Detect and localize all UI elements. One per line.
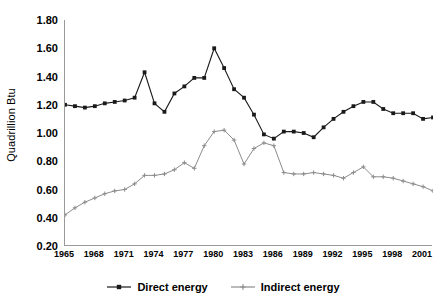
data-point-marker <box>113 189 117 193</box>
y-tick-label: 0.40 <box>37 212 58 224</box>
data-point-marker <box>311 170 315 174</box>
data-point-marker <box>431 189 433 193</box>
y-tick-label: 0.80 <box>37 155 58 167</box>
data-point-marker <box>421 117 425 121</box>
data-point-marker <box>371 100 375 104</box>
data-point-marker <box>352 104 356 108</box>
data-point-marker <box>431 116 433 120</box>
data-point-marker <box>411 182 415 186</box>
x-tick-label: 1968 <box>84 249 104 259</box>
data-point-marker <box>173 92 177 96</box>
data-point-marker <box>212 46 216 50</box>
data-point-marker <box>65 103 67 107</box>
legend-label: Direct energy <box>137 281 207 293</box>
data-point-marker <box>302 131 306 135</box>
x-tick-label: 1980 <box>203 249 223 259</box>
x-tick-label: 1965 <box>54 249 74 259</box>
energy-line-chart: Quadrillion Btu 1.801.601.401.201.000.80… <box>0 0 446 300</box>
legend-label: Indirect energy <box>261 281 340 293</box>
x-tick-label: 1983 <box>233 249 253 259</box>
x-axis-tick-labels: 1965196819711974197719801983198619891992… <box>64 249 432 267</box>
x-tick-label: 1977 <box>173 249 193 259</box>
data-point-marker <box>103 101 107 105</box>
data-point-marker <box>292 172 296 176</box>
data-point-marker <box>93 196 97 200</box>
data-point-marker <box>312 135 316 139</box>
data-point-marker <box>113 100 117 104</box>
x-tick-label: 1974 <box>143 249 163 259</box>
legend-entry-direct-energy[interactable]: Direct energy <box>106 281 207 293</box>
data-point-marker <box>381 175 385 179</box>
x-tick-label: 1989 <box>293 249 313 259</box>
x-tick-label: 1998 <box>382 249 402 259</box>
y-axis-title-text: Quadrillion Btu <box>5 88 17 162</box>
data-point-marker <box>242 96 246 100</box>
data-point-marker <box>83 106 87 110</box>
x-tick-label: 1995 <box>352 249 372 259</box>
data-point-marker <box>153 101 157 105</box>
data-point-marker <box>282 130 286 134</box>
data-point-marker <box>361 100 365 104</box>
data-point-marker <box>83 200 87 204</box>
y-tick-label: 1.60 <box>37 42 58 54</box>
data-point-marker <box>321 172 325 176</box>
data-point-marker <box>302 172 306 176</box>
legend-entry-indirect-energy[interactable]: Indirect energy <box>230 281 340 293</box>
plot-svg <box>65 20 433 246</box>
data-point-marker <box>192 76 196 80</box>
legend-swatch-square-marker-icon <box>106 282 132 292</box>
data-point-marker <box>381 107 385 111</box>
chart-legend: Direct energyIndirect energy <box>0 276 446 298</box>
y-tick-label: 1.40 <box>37 71 58 83</box>
data-point-marker <box>391 111 395 115</box>
data-point-marker <box>351 170 355 174</box>
plot-area <box>64 20 432 246</box>
series-direct-energy <box>65 46 433 140</box>
data-point-marker <box>202 76 206 80</box>
data-point-marker <box>162 172 166 176</box>
data-point-marker <box>262 133 266 137</box>
y-axis-title: Quadrillion Btu <box>0 0 22 250</box>
data-point-marker <box>93 104 97 108</box>
data-point-marker <box>222 66 226 70</box>
data-point-marker <box>123 99 127 103</box>
x-tick-label: 1986 <box>263 249 283 259</box>
data-point-marker <box>103 192 107 196</box>
data-point-marker <box>292 130 296 134</box>
series-line <box>65 130 433 215</box>
x-tick-label: 1971 <box>114 249 134 259</box>
y-tick-label: 1.00 <box>37 127 58 139</box>
data-point-marker <box>322 125 326 129</box>
data-point-marker <box>401 111 405 115</box>
data-point-marker <box>391 176 395 180</box>
y-axis-tick-labels: 1.801.601.401.201.000.800.600.400.20 <box>22 0 62 260</box>
data-point-marker <box>163 110 167 114</box>
data-point-marker <box>122 187 126 191</box>
data-point-marker <box>401 179 405 183</box>
series-indirect-energy <box>65 128 433 217</box>
y-tick-label: 0.60 <box>37 184 58 196</box>
data-point-marker <box>421 184 425 188</box>
data-point-marker <box>332 117 336 121</box>
legend-swatch-plus-marker-icon <box>230 282 256 292</box>
data-point-marker <box>411 111 415 115</box>
data-point-marker <box>331 173 335 177</box>
x-tick-label: 2001 <box>412 249 432 259</box>
data-point-marker <box>272 137 276 141</box>
data-point-marker <box>143 70 147 74</box>
data-point-marker <box>342 110 346 114</box>
data-point-marker <box>73 104 77 108</box>
data-point-marker <box>341 176 345 180</box>
y-tick-label: 1.80 <box>37 14 58 26</box>
data-point-marker <box>252 113 256 117</box>
data-point-marker <box>192 166 196 170</box>
x-tick-label: 1992 <box>323 249 343 259</box>
data-point-marker <box>152 173 156 177</box>
y-tick-label: 1.20 <box>37 99 58 111</box>
series-line <box>65 48 433 138</box>
data-point-marker <box>262 141 266 145</box>
data-point-marker <box>282 170 286 174</box>
data-point-marker <box>182 84 186 88</box>
data-point-marker <box>133 96 137 100</box>
data-point-marker <box>272 144 276 148</box>
